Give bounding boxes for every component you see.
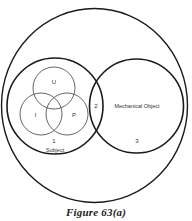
i-circle bbox=[20, 93, 62, 135]
u-label: U bbox=[52, 79, 56, 85]
subject-label: Subject bbox=[46, 147, 65, 153]
i-label: I bbox=[35, 112, 37, 118]
venn-diagram: U I P 1 Subject 2 Mechanical Object 3 bbox=[0, 0, 192, 221]
region-3-label: 3 bbox=[135, 138, 139, 144]
u-circle bbox=[33, 67, 75, 109]
region-1-label: 1 bbox=[52, 138, 56, 144]
p-label: P bbox=[72, 112, 76, 118]
mechanical-object-label: Mechanical Object bbox=[114, 103, 160, 109]
region-2-label: 2 bbox=[94, 103, 98, 109]
p-circle bbox=[46, 93, 88, 135]
figure-caption: Figure 63(a) bbox=[0, 206, 192, 218]
